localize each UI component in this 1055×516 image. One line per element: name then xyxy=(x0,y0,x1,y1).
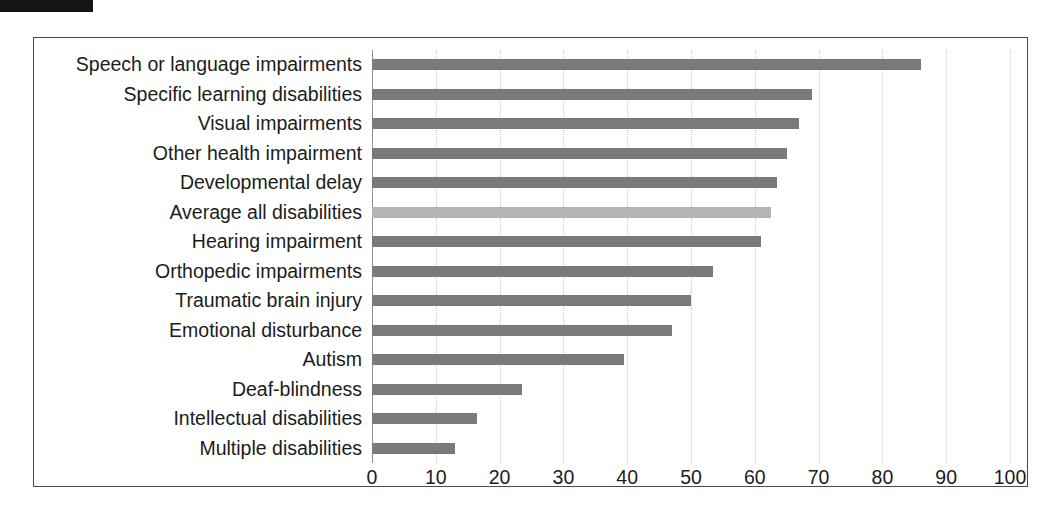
bar-row xyxy=(372,227,1010,257)
bar xyxy=(372,325,672,336)
category-label: Speech or language impairments xyxy=(76,50,362,80)
category-label: Specific learning disabilities xyxy=(124,80,362,110)
category-label: Hearing impairment xyxy=(192,227,362,257)
bar xyxy=(372,207,771,218)
x-tick-label: 0 xyxy=(367,466,378,489)
x-tick-label: 80 xyxy=(872,466,894,489)
category-label: Autism xyxy=(302,345,362,375)
category-label: Orthopedic impairments xyxy=(155,257,362,287)
bar-row xyxy=(372,198,1010,228)
bar-row xyxy=(372,316,1010,346)
bar-row xyxy=(372,80,1010,110)
x-tick-label: 20 xyxy=(489,466,511,489)
category-label: Other health impairment xyxy=(153,139,362,169)
bar-row xyxy=(372,257,1010,287)
x-tick-label: 10 xyxy=(425,466,447,489)
bar-row xyxy=(372,139,1010,169)
bar-row xyxy=(372,404,1010,434)
gridline-100 xyxy=(1010,50,1012,463)
bar xyxy=(372,384,522,395)
category-label: Developmental delay xyxy=(180,168,362,198)
x-tick-label: 60 xyxy=(744,466,766,489)
bar xyxy=(372,89,812,100)
category-label: Emotional disturbance xyxy=(169,316,362,346)
chart-body: Speech or language impairmentsSpecific l… xyxy=(34,38,1029,488)
redaction-bar xyxy=(0,0,93,12)
bar xyxy=(372,148,787,159)
x-tick-label: 70 xyxy=(808,466,830,489)
bar xyxy=(372,236,761,247)
bar-row xyxy=(372,434,1010,464)
category-label: Average all disabilities xyxy=(169,198,362,228)
plot-area xyxy=(372,50,1010,463)
category-label: Intellectual disabilities xyxy=(173,404,362,434)
bar xyxy=(372,177,777,188)
bar-row xyxy=(372,345,1010,375)
bar xyxy=(372,118,799,129)
x-tick-label: 100 xyxy=(994,466,1027,489)
bar xyxy=(372,266,713,277)
x-tick-label: 50 xyxy=(680,466,702,489)
bar-row xyxy=(372,286,1010,316)
bar xyxy=(372,59,921,70)
category-label: Multiple disabilities xyxy=(199,434,362,464)
category-label: Traumatic brain injury xyxy=(175,286,362,316)
category-axis: Speech or language impairmentsSpecific l… xyxy=(34,50,370,463)
category-label: Deaf-blindness xyxy=(232,375,362,405)
x-tick-label: 40 xyxy=(616,466,638,489)
bar-row xyxy=(372,50,1010,80)
bar xyxy=(372,295,691,306)
x-axis-labels: 0102030405060708090100 xyxy=(372,466,1010,496)
bar xyxy=(372,354,624,365)
bar-row xyxy=(372,109,1010,139)
bar-row xyxy=(372,375,1010,405)
bar-row xyxy=(372,168,1010,198)
x-tick-label: 30 xyxy=(553,466,575,489)
x-tick-label: 90 xyxy=(935,466,957,489)
bar xyxy=(372,443,455,454)
chart-frame: Speech or language impairmentsSpecific l… xyxy=(33,37,1028,487)
bar xyxy=(372,413,477,424)
category-label: Visual impairments xyxy=(198,109,362,139)
